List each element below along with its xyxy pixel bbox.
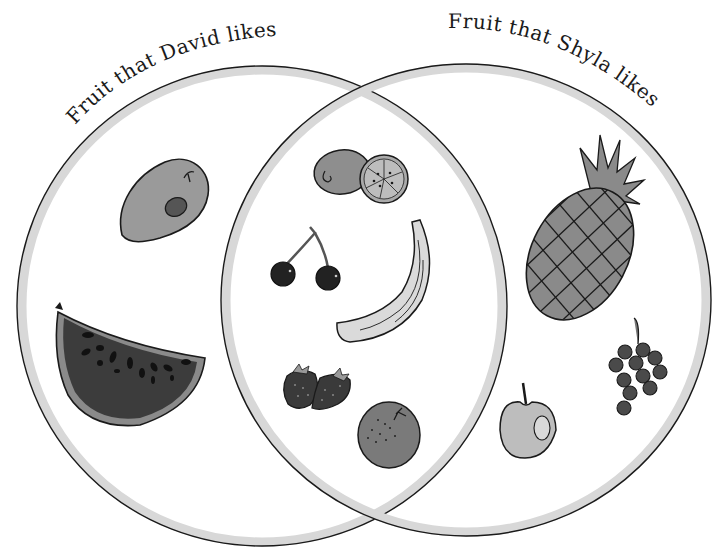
watermelon-icon [55,302,205,426]
banana-icon [337,220,430,342]
shyla-set-label: Fruit that Shyla likes [448,9,665,112]
strawberries-icon [284,364,351,409]
venn-diagram: Fruit that David likes Fruit that Shyla … [0,0,722,559]
cherries-icon [271,227,340,290]
shyla-set-circle [221,64,711,536]
kiwi-icon [311,146,408,203]
mango-icon [121,159,209,242]
david-set-circle [17,66,507,546]
apple-icon [500,383,556,458]
grapes-icon [609,318,667,415]
orange-icon [358,402,420,468]
